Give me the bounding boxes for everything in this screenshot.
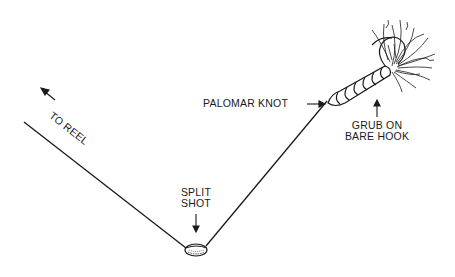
arrow-to-reel-icon bbox=[41, 88, 55, 100]
line-to-knot bbox=[206, 101, 327, 246]
split-shot-label: SPLIT SHOT bbox=[178, 187, 214, 209]
grub-label: GRUB ON BARE HOOK bbox=[340, 120, 414, 142]
split-shot-label-line2: SHOT bbox=[178, 198, 214, 209]
arrow-grub-icon bbox=[374, 100, 380, 117]
arrow-split-shot-icon bbox=[193, 214, 199, 232]
grub-label-line2: BARE HOOK bbox=[340, 131, 414, 142]
split-shot-icon bbox=[185, 244, 207, 256]
grub-icon bbox=[328, 66, 390, 106]
line-to-reel bbox=[24, 122, 186, 248]
palomar-knot-label: PALOMAR KNOT bbox=[203, 98, 288, 109]
